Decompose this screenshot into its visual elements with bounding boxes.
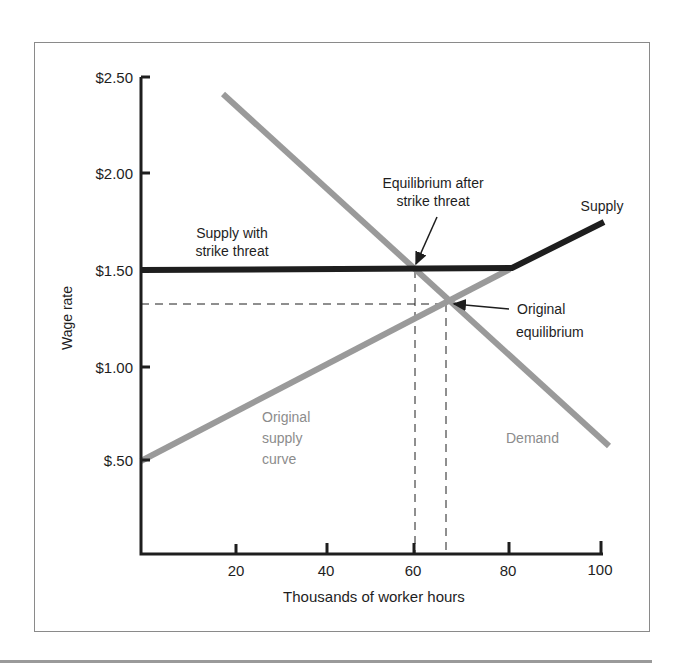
eq-after-arrow-icon xyxy=(416,217,437,264)
x-ticks xyxy=(236,541,601,554)
original-supply-label-line3: curve xyxy=(262,451,296,467)
y-tick-label: $2.50 xyxy=(95,69,133,86)
x-axis-title: Thousands of worker hours xyxy=(283,588,465,605)
eq-after-label-line2: strike threat xyxy=(396,193,469,209)
original-eq-label-line1: Original xyxy=(517,301,565,317)
original-supply-label-line2: supply xyxy=(262,430,302,446)
y-tick-label: $1.50 xyxy=(95,262,133,279)
y-tick-label: $1.00 xyxy=(95,359,133,376)
x-tick-label: 40 xyxy=(318,562,335,579)
x-tick-label: 60 xyxy=(405,562,422,579)
original-supply-label-line1: Original xyxy=(262,409,310,425)
original-eq-label-line2: equilibrium xyxy=(516,324,584,340)
y-axis-title: Wage rate xyxy=(59,286,75,350)
chart: $2.50 $2.00 $1.50 $1.00 $.50 20 40 60 80… xyxy=(0,0,681,667)
y-tick-label: $2.00 xyxy=(95,165,133,182)
x-tick-label: 100 xyxy=(587,561,612,578)
supply-label: Supply xyxy=(581,198,624,214)
x-tick-label: 80 xyxy=(500,562,517,579)
y-tick-label: $.50 xyxy=(104,452,133,469)
strike-supply-label-line1: Supply with xyxy=(196,225,268,241)
original-supply-line xyxy=(141,269,510,461)
strike-supply-label-line2: strike threat xyxy=(195,243,268,259)
demand-label: Demand xyxy=(506,430,559,446)
eq-after-label-line1: Equilibrium after xyxy=(382,175,483,191)
x-tick-label: 20 xyxy=(228,562,245,579)
